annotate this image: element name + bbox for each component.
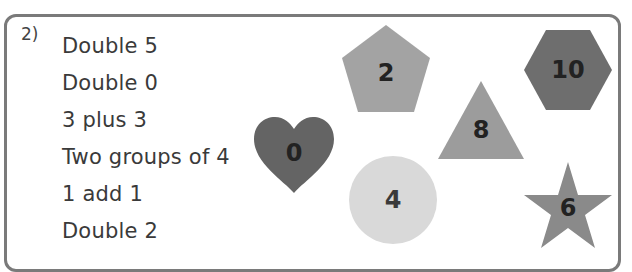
shape-value: 10 [524, 30, 612, 110]
hexagon-shape: 10 [524, 30, 612, 110]
shape-value: 6 [524, 162, 612, 248]
list-item: Double 0 [62, 65, 230, 102]
question-list: Double 5 Double 0 3 plus 3 Two groups of… [62, 28, 230, 250]
shape-value: 0 [254, 117, 334, 193]
shape-value: 2 [342, 25, 430, 112]
list-item: Double 5 [62, 28, 230, 65]
triangle-shape: 8 [438, 81, 524, 159]
list-item: 1 add 1 [62, 176, 230, 213]
star-shape: 6 [524, 162, 612, 248]
circle-shape: 4 [349, 156, 437, 244]
list-item: 3 plus 3 [62, 102, 230, 139]
heart-shape: 0 [254, 117, 334, 193]
shape-value: 4 [349, 156, 437, 244]
list-item: Two groups of 4 [62, 139, 230, 176]
shape-value: 8 [438, 81, 524, 159]
list-item: Double 2 [62, 213, 230, 250]
question-number: 2) [21, 24, 38, 44]
pentagon-shape: 2 [342, 25, 430, 112]
